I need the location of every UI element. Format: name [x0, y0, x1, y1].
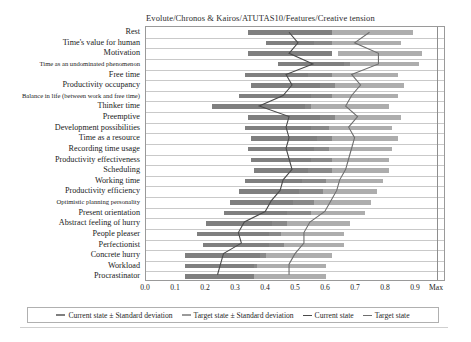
value-axis-tick: Max [429, 283, 443, 292]
line-current-state [218, 32, 313, 274]
line-target-state [289, 32, 378, 274]
category-label: Rest [125, 26, 140, 37]
legend-swatch-icon [303, 315, 312, 316]
chart-legend: Current state ± Standard deviationTarget… [27, 307, 439, 323]
category-label: Workload [108, 260, 140, 271]
category-label: Development possibilities [55, 122, 140, 133]
value-axis-tick: 0.4 [260, 283, 270, 292]
category-label: Productivity effectiveness [55, 154, 140, 165]
line-series-layer [146, 27, 444, 280]
plot-inner [146, 27, 444, 280]
category-label: Concrete hurry [91, 249, 140, 260]
category-label: Optimistic planning personality [56, 196, 140, 207]
category-label: Working time [95, 175, 140, 186]
value-axis: 0.00.10.20.30.40.50.60.70.80.9Max [145, 283, 445, 297]
category-axis: RestTime's value for humanMotivationTime… [0, 26, 143, 281]
chart-title: Evolute/Chronos & Kairos/ATUTAS10/Featur… [146, 13, 375, 23]
category-label: Abstract feeling of hurry [59, 217, 140, 228]
plot-area [145, 26, 445, 281]
category-label: Time as a resource [79, 132, 140, 143]
legend-item-label: Current state [315, 311, 354, 320]
value-axis-tick: 0.7 [350, 283, 360, 292]
category-label: Perfectionist [99, 239, 140, 250]
category-label: Productivity efficiency [65, 185, 140, 196]
category-label: Preemptive [103, 111, 140, 122]
legend-swatch-icon [363, 315, 372, 316]
legend-swatch-icon [182, 314, 191, 316]
value-axis-tick: 0.3 [230, 283, 240, 292]
category-label: Productivity occupancy [62, 79, 140, 90]
value-axis-tick: 0.6 [320, 283, 330, 292]
legend-item-label: Target state [375, 311, 410, 320]
category-label: Scheduling [103, 164, 140, 175]
category-label: Procrastinator [94, 270, 140, 281]
legend-item-label: Current state ± Standard deviation [68, 311, 172, 320]
legend-item[interactable]: Target state ± Standard deviation [182, 311, 294, 320]
chart-container: Evolute/Chronos & Kairos/ATUTAS10/Featur… [0, 0, 471, 342]
legend-swatch-icon [56, 314, 65, 316]
category-label: People pleaser [92, 228, 140, 239]
category-label: Time as an undominated phenomenon [40, 58, 140, 69]
legend-item[interactable]: Current state [303, 311, 354, 320]
legend-item[interactable]: Target state [363, 311, 410, 320]
category-label: Present orientation [78, 207, 140, 218]
category-label: Recording time usage [69, 143, 140, 154]
legend-underline [20, 327, 448, 328]
category-label: Free time [109, 69, 140, 80]
category-label: Balance in life (between work and free t… [22, 90, 140, 101]
value-axis-tick: 0.0 [140, 283, 150, 292]
value-axis-tick: 0.9 [410, 283, 420, 292]
value-axis-tick: 0.5 [290, 283, 300, 292]
value-axis-tick: 0.1 [170, 283, 180, 292]
category-label: Motivation [104, 47, 140, 58]
category-label: Time's value for human [63, 37, 140, 48]
value-axis-tick: 0.8 [380, 283, 390, 292]
category-label: Thinker time [97, 100, 140, 111]
legend-item[interactable]: Current state ± Standard deviation [56, 311, 172, 320]
legend-item-label: Target state ± Standard deviation [194, 311, 294, 320]
value-axis-tick: 0.2 [200, 283, 210, 292]
